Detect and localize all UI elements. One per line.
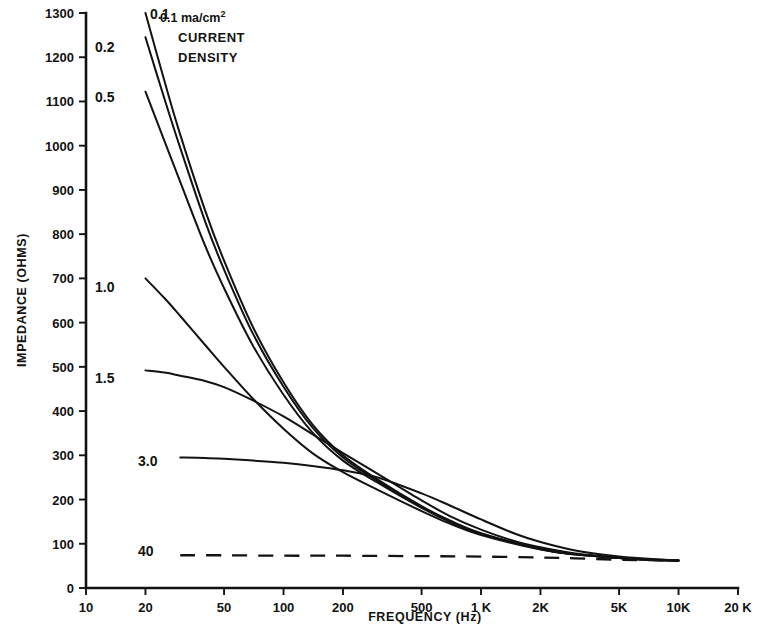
y-tick-label: 0 (67, 581, 74, 596)
y-tick-label: 100 (52, 537, 74, 552)
y-tick-label: 800 (52, 227, 74, 242)
annotation-exponent: 2 (220, 9, 225, 19)
y-tick-label: 600 (52, 316, 74, 331)
x-tick-label: 200 (332, 600, 354, 615)
impedance-frequency-chart: 0100200300400500600700800900100011001200… (0, 0, 774, 642)
series-curve-0.1 (145, 13, 678, 561)
x-tick-label: 2K (532, 600, 549, 615)
y-tick-label: 1200 (45, 50, 74, 65)
annotation-line-current: CURRENT (178, 30, 245, 45)
series-label-40: 40 (138, 543, 154, 559)
series-curve-1.0 (145, 278, 678, 560)
x-tick-label: 10K (667, 600, 691, 615)
axes-layer: 0100200300400500600700800900100011001200… (45, 6, 752, 615)
y-tick-label: 1000 (45, 139, 74, 154)
series-label-0.5: 0.5 (95, 89, 115, 105)
y-tick-label: 1300 (45, 6, 74, 21)
y-tick-label: 500 (52, 360, 74, 375)
x-tick-label: 50 (217, 600, 231, 615)
y-axis-title: IMPEDANCE (OHMS) (15, 233, 29, 367)
series-label-0.2: 0.2 (95, 39, 115, 55)
curves-layer (145, 13, 678, 561)
y-tick-label: 300 (52, 448, 74, 463)
svg-text:0.1 ma/cm2: 0.1 ma/cm2 (160, 9, 226, 25)
x-tick-label: 10 (79, 600, 93, 615)
y-tick-label: 900 (52, 183, 74, 198)
x-axis-title: FREQUENCY (Hz) (368, 610, 482, 624)
series-curve-3.0 (180, 458, 678, 561)
current-density-annotation: 0.1 ma/cm2 CURRENT DENSITY (160, 9, 245, 65)
y-tick-label: 200 (52, 493, 74, 508)
series-label-1.0: 1.0 (95, 279, 115, 295)
y-tick-label: 400 (52, 404, 74, 419)
series-curve-0.2 (145, 37, 678, 560)
x-tick-label: 100 (273, 600, 295, 615)
annotation-value: 0.1 (160, 11, 177, 25)
annotation-line-density: DENSITY (178, 50, 238, 65)
series-label-1.5: 1.5 (95, 370, 115, 386)
x-tick-label: 5K (611, 600, 628, 615)
y-tick-label: 700 (52, 271, 74, 286)
curve-labels-layer: 0.10.20.51.01.53.040 (95, 6, 170, 559)
series-curve-1.5 (145, 370, 678, 560)
annotation-unit: ma/cm (181, 11, 221, 25)
x-tick-label: 20 K (724, 600, 752, 615)
y-tick-label: 1100 (46, 94, 74, 109)
chart-svg: 0100200300400500600700800900100011001200… (0, 0, 774, 642)
x-tick-label: 20 (138, 600, 152, 615)
series-label-3.0: 3.0 (138, 453, 158, 469)
